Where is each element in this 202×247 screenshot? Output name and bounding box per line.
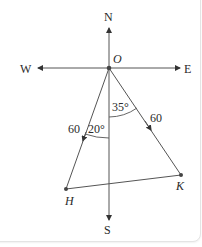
arrow-OH-icon bbox=[84, 132, 87, 139]
label-H: H bbox=[64, 194, 75, 208]
length-OK: 60 bbox=[150, 111, 162, 125]
label-west: W bbox=[20, 62, 32, 76]
angle-label-35: 35° bbox=[112, 100, 129, 114]
angle-label-20: 20° bbox=[88, 122, 105, 136]
label-south: S bbox=[104, 223, 111, 237]
bearing-diagram: N S E W O H K 60 60 20° 35° bbox=[0, 0, 202, 247]
label-origin: O bbox=[113, 52, 122, 66]
triangle bbox=[66, 68, 181, 189]
label-north: N bbox=[104, 10, 113, 24]
points bbox=[64, 66, 183, 191]
point-H bbox=[64, 187, 68, 191]
label-K: K bbox=[175, 179, 185, 193]
point-K bbox=[179, 173, 183, 177]
length-OH: 60 bbox=[68, 122, 80, 136]
label-east: E bbox=[184, 62, 191, 76]
segment-HK bbox=[66, 175, 181, 189]
point-O bbox=[107, 66, 112, 71]
